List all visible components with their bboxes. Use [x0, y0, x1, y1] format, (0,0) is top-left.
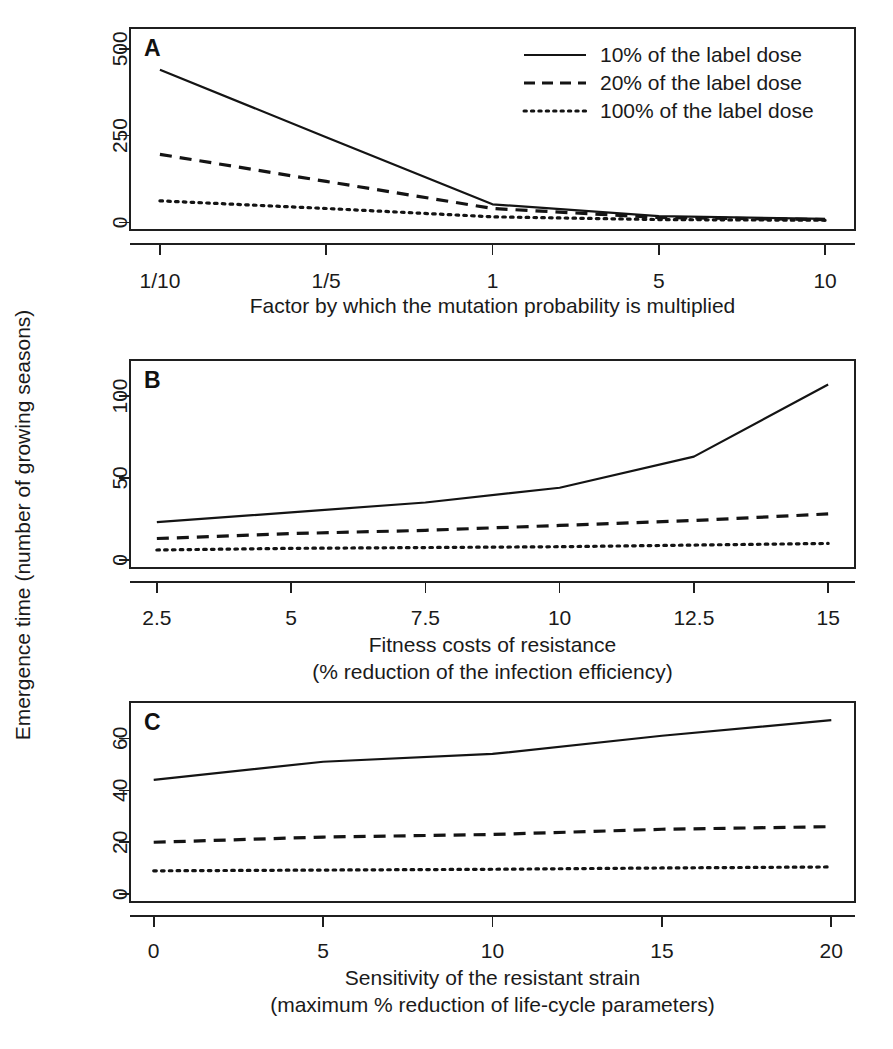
x-axis-label: Fitness costs of resistance: [369, 633, 616, 656]
x-axis-label-line2: (maximum % reduction of life-cycle param…: [270, 993, 715, 1016]
x-tick-label: 1: [487, 269, 499, 292]
x-axis-label-line2: (% reduction of the infection efficiency…: [312, 660, 672, 683]
x-tick-label: 1/10: [139, 269, 180, 292]
legend-label-solid: 10% of the label dose: [600, 43, 802, 66]
shared-y-axis-label: Emergence time (number of growing season…: [11, 310, 34, 741]
x-tick-label: 12.5: [673, 606, 714, 629]
x-tick-label: 10: [481, 939, 504, 962]
x-tick-label: 15: [650, 939, 673, 962]
y-tick-label: 50: [108, 466, 131, 489]
x-tick-label: 5: [285, 606, 297, 629]
x-tick-label: 20: [820, 939, 843, 962]
x-axis-label: Factor by which the mutation probability…: [250, 294, 736, 317]
legend-label-dashed: 20% of the label dose: [600, 71, 802, 94]
x-tick-label: 0: [148, 939, 160, 962]
y-tick-label: 250: [108, 118, 131, 153]
panel-letter: B: [144, 367, 161, 393]
x-tick-label: 2.5: [142, 606, 171, 629]
y-tick-label: 0: [108, 217, 131, 229]
plot-frame: [130, 702, 855, 902]
y-tick-label: 500: [108, 31, 131, 66]
figure-root: Emergence time (number of growing season…: [0, 0, 893, 1049]
panel-c: 020406005101520CSensitivity of the resis…: [108, 702, 855, 1016]
legend: 10% of the label dose20% of the label do…: [524, 43, 814, 122]
y-tick-label: 40: [108, 779, 131, 802]
x-tick-label: 15: [816, 606, 839, 629]
x-tick-label: 5: [317, 939, 329, 962]
x-tick-label: 7.5: [411, 606, 440, 629]
y-tick-label: 0: [108, 554, 131, 566]
x-tick-label: 1/5: [312, 269, 341, 292]
x-axis-label: Sensitivity of the resistant strain: [345, 966, 640, 989]
y-tick-label: 60: [108, 727, 131, 750]
y-tick-label: 100: [108, 379, 131, 414]
x-tick-label: 10: [813, 269, 836, 292]
panel-b: 0501002.557.51012.515BFitness costs of r…: [108, 360, 855, 683]
x-tick-label: 5: [653, 269, 665, 292]
panel-letter: A: [144, 35, 161, 61]
multi-panel-line-chart: Emergence time (number of growing season…: [0, 0, 893, 1049]
y-tick-label: 0: [108, 888, 131, 900]
x-tick-label: 10: [548, 606, 571, 629]
panel-letter: C: [144, 709, 161, 735]
y-tick-label: 20: [108, 831, 131, 854]
legend-label-dotted: 100% of the label dose: [600, 99, 814, 122]
